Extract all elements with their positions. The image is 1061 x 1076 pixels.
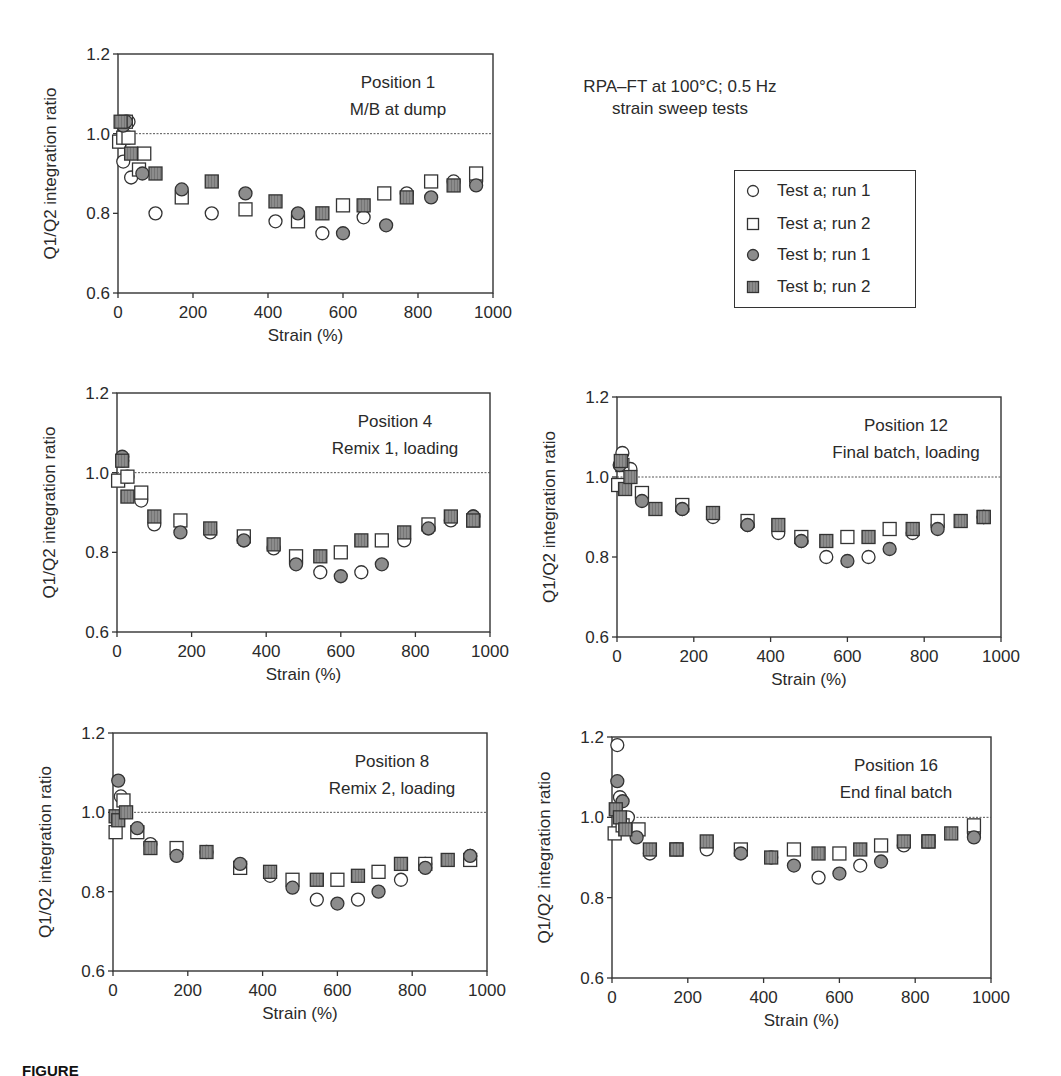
y-axis-label: Q1/Q2 integration ratio [40, 427, 59, 599]
series-filled-square [609, 803, 957, 864]
legend: Test a; run 1 Test a; run 2 Test b; run … [734, 170, 916, 308]
x-tick-label: 600 [825, 988, 853, 1007]
panel-title: Position 8 [355, 752, 430, 771]
x-tick-label: 0 [112, 642, 121, 661]
open-circle-marker [269, 215, 282, 228]
open-circle-marker [351, 893, 364, 906]
figure-canvas: 0.60.81.01.202004006008001000Strain (%)Q… [0, 0, 1061, 1076]
filled-square-marker [812, 847, 825, 860]
open-circle-marker [394, 873, 407, 886]
filled-square-marker [200, 846, 213, 859]
filled-square-marker [772, 519, 785, 532]
legend-item-test-b-run-2: Test b; run 2 [745, 275, 871, 299]
x-tick-label: 200 [174, 981, 202, 1000]
filled-circle-marker [234, 857, 247, 870]
filled-square-marker [613, 811, 626, 824]
x-tick-label: 400 [252, 642, 280, 661]
filled-square-marker [398, 526, 411, 539]
x-axis-label: Strain (%) [262, 1004, 338, 1023]
chart-panel-position-4: 0.60.81.01.202004006008001000Strain (%)Q… [40, 384, 509, 684]
x-tick-label: 0 [607, 988, 616, 1007]
open-square-marker [833, 847, 846, 860]
filled-square-marker [264, 865, 277, 878]
open-square-marker [109, 826, 122, 839]
series-filled-circle [116, 450, 480, 583]
open-circle-marker [205, 207, 218, 220]
filled-circle-marker [611, 775, 624, 788]
open-circle-icon [745, 183, 761, 199]
x-tick-label: 400 [756, 647, 784, 666]
x-tick-label: 1000 [972, 988, 1010, 1007]
y-tick-label: 1.0 [585, 468, 609, 487]
filled-circle-marker [331, 897, 344, 910]
plot-frame [117, 393, 490, 632]
open-square-marker [883, 523, 896, 536]
filled-circle-marker [380, 219, 393, 232]
open-circle-marker [820, 551, 833, 564]
open-square-icon [745, 216, 761, 232]
chart-panel-position-12: 0.60.81.01.202004006008001000Strain (%)Q… [540, 388, 1020, 689]
filled-square-marker [862, 531, 875, 544]
panel-subtitle: End final batch [840, 783, 952, 802]
y-tick-label: 0.8 [580, 889, 604, 908]
open-square-marker [138, 147, 151, 160]
panel-subtitle: Final batch, loading [832, 443, 979, 462]
filled-circle-marker [174, 526, 187, 539]
y-tick-label: 1.2 [85, 384, 109, 403]
y-tick-label: 1.0 [86, 125, 110, 144]
filled-square-marker [205, 175, 218, 188]
x-tick-label: 400 [254, 303, 282, 322]
x-tick-label: 200 [680, 647, 708, 666]
x-tick-label: 800 [901, 988, 929, 1007]
filled-circle-marker [795, 535, 808, 548]
filled-circle-marker [967, 831, 980, 844]
series-open-square [112, 470, 480, 563]
panel-title: Position 1 [361, 73, 436, 92]
filled-square-marker [204, 522, 217, 535]
open-square-marker [375, 534, 388, 547]
open-circle-marker [314, 566, 327, 579]
filled-circle-marker [422, 522, 435, 535]
filled-circle-marker [875, 855, 888, 868]
x-tick-label: 200 [179, 303, 207, 322]
filled-square-marker [444, 510, 457, 523]
filled-square-marker [441, 853, 454, 866]
open-square-marker [967, 819, 980, 832]
x-tick-label: 0 [113, 303, 122, 322]
filled-square-marker [649, 503, 662, 516]
experiment-note: RPA–FT at 100°C; 0.5 Hz strain sweep tes… [560, 76, 800, 120]
open-circle-marker [854, 859, 867, 872]
filled-square-marker [400, 191, 413, 204]
filled-square-marker [125, 147, 138, 160]
filled-circle-icon [745, 247, 761, 263]
open-circle-marker [357, 211, 370, 224]
open-square-marker [174, 514, 187, 527]
filled-circle-marker [635, 495, 648, 508]
x-axis-label: Strain (%) [771, 670, 847, 689]
filled-square-marker [316, 207, 329, 220]
x-tick-label: 0 [108, 981, 117, 1000]
filled-circle-marker [464, 849, 477, 862]
filled-square-marker [614, 455, 627, 468]
open-square-marker [875, 839, 888, 852]
open-square-marker [121, 470, 134, 483]
open-circle-marker [310, 893, 323, 906]
panel-subtitle: Remix 2, loading [329, 779, 456, 798]
filled-square-marker [954, 515, 967, 528]
y-tick-label: 0.6 [85, 623, 109, 642]
filled-square-marker [765, 851, 778, 864]
y-tick-label: 0.6 [81, 962, 105, 981]
x-tick-label: 600 [327, 642, 355, 661]
y-tick-label: 1.2 [86, 45, 110, 64]
filled-square-marker [149, 167, 162, 180]
x-axis-label: Strain (%) [764, 1011, 840, 1030]
x-tick-label: 400 [248, 981, 276, 1000]
filled-circle-marker [131, 822, 144, 835]
filled-square-marker [854, 843, 867, 856]
filled-circle-marker [676, 503, 689, 516]
open-square-marker [135, 486, 148, 499]
y-tick-label: 0.6 [580, 969, 604, 988]
open-square-marker [372, 865, 385, 878]
open-square-marker [787, 843, 800, 856]
plot-frame [113, 733, 487, 971]
